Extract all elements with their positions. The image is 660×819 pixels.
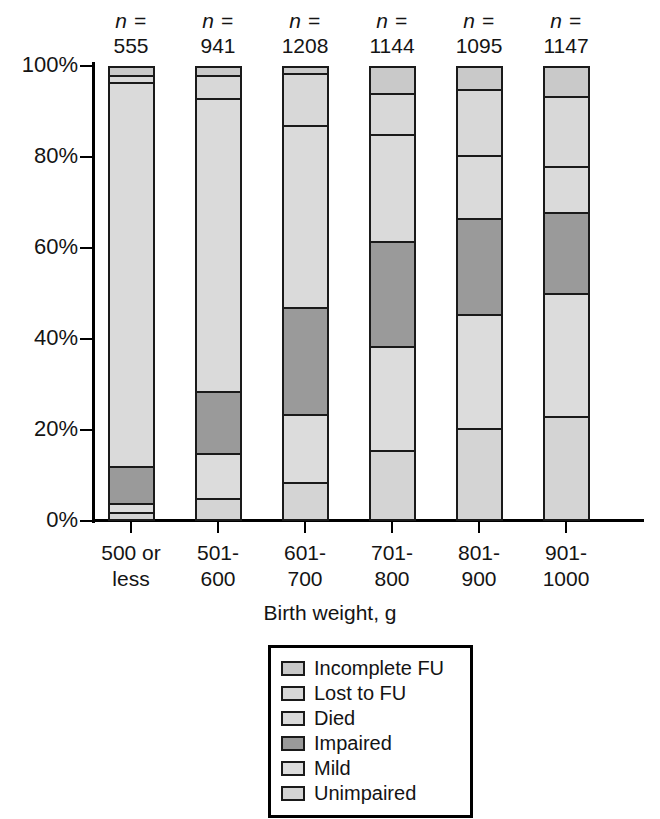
bar-segment-unimpaired [545,418,588,521]
legend-swatch-died [281,711,305,726]
bar-segment-impaired [545,214,588,296]
chart-legend: Incomplete FULost to FUDiedImpairedMildU… [268,645,473,818]
y-axis-tick-label: 60% [6,236,78,258]
bar-segment-died [110,84,153,468]
bar-segment-impaired [197,393,240,454]
legend-swatch-unimpaired [281,786,305,801]
legend-label: Lost to FU [314,683,406,704]
bar-segment-lost-to-fu [197,77,240,100]
legend-label: Unimpaired [314,783,416,804]
y-axis-tick-label: 100% [6,54,78,76]
sample-size-label: n =1147 [506,8,626,58]
bar-segment-died [371,136,414,243]
bar-segment-died [284,127,327,309]
x-axis-tick [304,521,306,533]
bar-segment-mild [197,455,240,501]
legend-swatch-impaired [281,736,305,751]
sample-size-prefix: n = [376,9,407,32]
sample-size-prefix: n = [463,9,494,32]
legend-item: Died [281,706,460,731]
x-axis-tick-label-line: 901- [506,540,626,566]
legend-item: Incomplete FU [281,656,460,681]
legend-swatch-lost-to-fu [281,686,305,701]
x-axis-tick [565,521,567,533]
bar-segment-unimpaired [284,484,327,521]
legend-label: Died [314,708,355,729]
bar-segment-mild [371,348,414,453]
bar-segment-unimpaired [371,452,414,521]
y-axis-label-group: 0%20%40%60%80%100% [0,0,78,819]
x-axis-tick [217,521,219,533]
stacked-bar [282,66,329,521]
bar-segment-lost-to-fu [110,77,153,84]
legend-swatch-incomplete-fu [281,661,305,676]
stacked-bar [543,66,590,521]
y-axis-tick [80,247,92,249]
plot-area [94,66,632,521]
sample-size-value: 1147 [506,33,626,58]
sample-size-prefix: n = [115,9,146,32]
bar-segment-unimpaired [197,500,240,521]
bar-segment-incomplete-fu [284,68,327,75]
x-axis-title: Birth weight, g [0,601,660,625]
x-axis-tick [478,521,480,533]
y-axis-tick-label: 40% [6,327,78,349]
bar-segment-mild [284,416,327,484]
bar-segment-unimpaired [110,514,153,521]
sample-size-label-row: n =555n =941n =1208n =1144n =1095n =1147 [0,8,660,60]
y-axis-tick [80,520,92,522]
bar-segment-lost-to-fu [284,75,327,127]
stacked-bar [195,66,242,521]
bar-segment-incomplete-fu [545,68,588,98]
legend-item: Unimpaired [281,781,460,806]
sample-size-prefix: n = [550,9,581,32]
bar-segment-unimpaired [458,430,501,521]
x-axis-tick-label-line: 1000 [506,566,626,592]
bar-segment-lost-to-fu [458,91,501,157]
bar-segment-impaired [371,243,414,348]
bar-segment-incomplete-fu [371,68,414,95]
sample-size-prefix: n = [202,9,233,32]
bar-segment-died [458,157,501,221]
x-axis-tick-label: 901-1000 [506,540,626,592]
legend-item: Lost to FU [281,681,460,706]
stacked-bar [369,66,416,521]
x-axis-tick [391,521,393,533]
bar-segment-impaired [110,468,153,504]
legend-label: Incomplete FU [314,658,444,679]
y-axis-tick [80,429,92,431]
bar-segment-died [197,100,240,393]
legend-label: Mild [314,758,351,779]
bar-segment-impaired [458,220,501,316]
legend-label: Impaired [314,733,392,754]
y-axis-tick [80,65,92,67]
bar-segment-impaired [284,309,327,416]
y-axis-tick-label: 0% [6,509,78,531]
bar-segment-incomplete-fu [110,68,153,77]
stacked-bar [108,66,155,521]
bar-segment-lost-to-fu [545,98,588,169]
bar-segment-incomplete-fu [458,68,501,91]
bar-segment-mild [458,316,501,430]
y-axis-tick [80,156,92,158]
stacked-bar-chart-figure: n =555n =941n =1208n =1144n =1095n =1147… [0,0,660,819]
legend-item: Mild [281,756,460,781]
legend-item: Impaired [281,731,460,756]
stacked-bar [456,66,503,521]
x-axis-tick [130,521,132,533]
bar-segment-lost-to-fu [371,95,414,136]
bar-segment-incomplete-fu [197,68,240,77]
sample-size-prefix: n = [289,9,320,32]
bar-segment-mild [545,295,588,418]
legend-swatch-mild [281,761,305,776]
y-axis-tick-label: 80% [6,145,78,167]
bar-segment-mild [110,505,153,514]
y-axis-tick-label: 20% [6,418,78,440]
bar-segment-died [545,168,588,214]
y-axis-tick [80,338,92,340]
